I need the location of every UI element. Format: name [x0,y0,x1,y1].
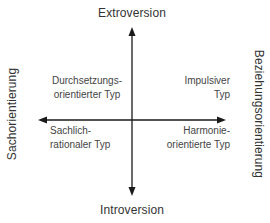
axis-label-sachorientierung: Sachorientierung [5,68,19,160]
quadrant-top-right: Impulsiver Typ [160,74,230,102]
axis-label-extroversion: Extroversion [0,6,264,20]
quadrant-top-left: Durchsetzungs- orientierter Typ [50,74,124,102]
quadrant-label-line: orientierte Typ [150,138,230,152]
axis-label-introversion: Introversion [0,203,264,217]
quadrant-label-line: orientierter Typ [50,88,124,102]
arrow-down-icon [129,187,136,196]
quadrant-bottom-right: Harmonie- orientierte Typ [150,124,230,152]
axis-cross [0,0,270,223]
quadrant-label-line: Typ [160,88,230,102]
arrow-right-icon [217,117,226,124]
quadrant-label-line: Sachlich- [50,124,130,138]
arrow-left-icon [38,117,47,124]
arrow-up-icon [129,27,136,36]
quadrant-bottom-left: Sachlich- rationaler Typ [50,124,130,152]
quadrant-label-line: Harmonie- [150,124,230,138]
axis-label-beziehungsorientierung: Beziehungsorientierung [252,50,266,178]
quadrant-label-line: Durchsetzungs- [50,74,124,88]
quadrant-label-line: rationaler Typ [50,138,130,152]
quadrant-label-line: Impulsiver [160,74,230,88]
